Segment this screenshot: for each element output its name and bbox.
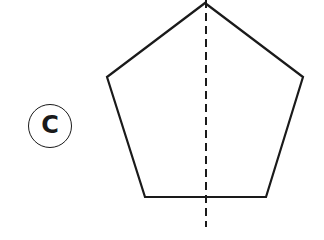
option-label: C	[41, 113, 59, 137]
option-label-badge: C	[28, 104, 72, 148]
